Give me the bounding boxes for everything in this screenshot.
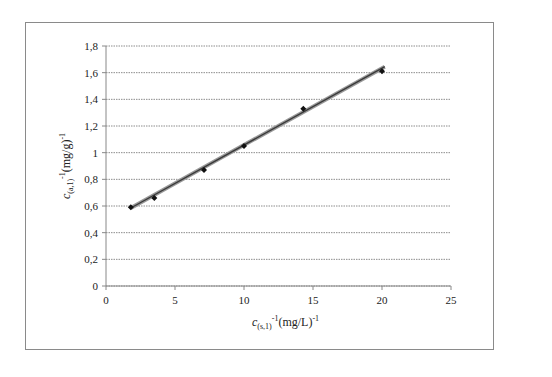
x-tick-label: 0 [103, 294, 109, 306]
x-tick-label: 5 [172, 294, 178, 306]
y-tick-label: 1,6 [84, 67, 98, 79]
y-tick-label: 1,8 [84, 40, 98, 52]
x-tick-label: 10 [239, 294, 251, 306]
y-tick-labels: 00,20,40,60,811,21,41,61,8 [84, 40, 98, 292]
fit-line [131, 67, 385, 208]
x-tick-label: 25 [446, 294, 458, 306]
y-tick-label: 0 [93, 280, 99, 292]
x-tick-label: 20 [377, 294, 389, 306]
gridlines [106, 46, 451, 286]
axes [102, 46, 451, 290]
y-tick-label: 1 [93, 147, 99, 159]
y-tick-label: 1,4 [84, 93, 98, 105]
y-tick-label: 0,2 [84, 253, 98, 265]
y-tick-label: 0,4 [84, 227, 98, 239]
y-axis-title: c(a,1)-1(mg/g)-1 [58, 133, 75, 199]
y-tick-label: 1,2 [84, 120, 98, 132]
x-tick-label: 15 [308, 294, 320, 306]
y-tick-label: 0,8 [84, 173, 98, 185]
x-axis-title: c(s,1)-1(mg/L)-1 [252, 314, 319, 331]
scatter-chart: 00,20,40,60,811,21,41,61,8 0510152025 c(… [0, 0, 552, 377]
y-tick-label: 0,6 [84, 200, 98, 212]
x-tick-labels: 0510152025 [103, 294, 457, 306]
